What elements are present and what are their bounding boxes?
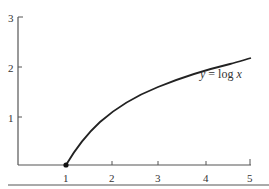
x-tick-label-5: 5: [247, 172, 253, 184]
x-tick-label-4: 4: [203, 172, 209, 184]
point-marker: [63, 162, 68, 167]
x-tick-label-3: 3: [155, 172, 161, 184]
log-function-chart: 3 2 1 1 2 3 4 5 y = log x: [0, 0, 269, 189]
y-tick-label-1: 1: [8, 112, 14, 124]
x-tick-label-2: 2: [109, 172, 115, 184]
y-tick-label-2: 2: [8, 62, 14, 74]
curve-label: y = log x: [199, 67, 242, 81]
y-tick-label-3: 3: [8, 12, 14, 24]
x-tick-label-1: 1: [63, 172, 69, 184]
